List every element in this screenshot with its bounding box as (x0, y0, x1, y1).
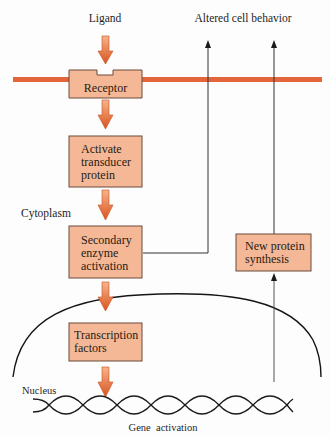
dna-helix (33, 396, 293, 414)
ligand-arrow (98, 36, 113, 64)
gene-to-protein-connector (271, 273, 277, 382)
box-line: enzyme (81, 246, 118, 260)
new-protein-box: New protein synthesis (236, 234, 311, 271)
cytoplasm-label: Cytoplasm (21, 207, 71, 220)
gene-activation-label: Gene activation (129, 422, 199, 433)
secondary-to-transcription-arrow (98, 282, 113, 311)
box-line: factors (74, 341, 107, 355)
arrowhead-icon (271, 273, 277, 281)
secondary-enzyme-box: Secondary enzyme activation (69, 226, 142, 278)
receptor-label: Receptor (84, 81, 127, 95)
box-line: transducer (81, 155, 131, 169)
cell-membrane (13, 77, 322, 82)
down-arrow-icon (98, 282, 113, 311)
altered-cell-behavior-label: Altered cell behavior (194, 12, 291, 24)
nucleus-envelope (13, 294, 321, 377)
secondary-to-behavior-connector (143, 40, 211, 253)
box-line: Secondary (81, 233, 132, 247)
arrowhead-icon (205, 40, 211, 48)
nucleus-label: Nucleus (22, 385, 56, 396)
receptor-to-transducer-arrow (98, 100, 113, 129)
box-line: protein (81, 168, 115, 182)
down-arrow-icon (98, 190, 113, 220)
box-line: activation (81, 259, 128, 273)
protein-to-behavior-connector (271, 40, 277, 234)
signal-transduction-diagram: Ligand Altered cell behavior Receptor (0, 0, 331, 437)
box-line: Activate (81, 142, 122, 156)
box-line: Transcription (74, 328, 138, 342)
box-line: New protein (245, 239, 305, 253)
transcription-factors-box: Transcription factors (69, 323, 142, 361)
receptor-box: Receptor (69, 70, 142, 98)
transcription-to-gene-arrow (98, 367, 113, 397)
transducer-to-secondary-arrow (98, 190, 113, 220)
box-line: synthesis (245, 252, 289, 266)
arrowhead-icon (271, 40, 277, 48)
down-arrow-icon (98, 100, 113, 129)
down-arrow-icon (98, 367, 113, 397)
ligand-label: Ligand (89, 12, 122, 25)
transducer-box: Activate transducer protein (69, 136, 142, 187)
down-arrow-icon (98, 36, 113, 64)
